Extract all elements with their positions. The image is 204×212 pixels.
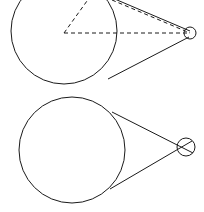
geometry-diagram	[0, 0, 204, 212]
figure-canvas	[0, 0, 204, 212]
